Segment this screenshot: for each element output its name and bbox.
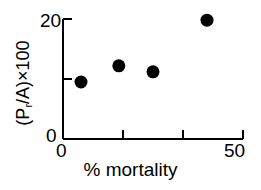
- y-axis-slash-a: /A): [13, 81, 33, 104]
- data-point: [201, 14, 214, 27]
- scatter-plot-figure: 20 0 0 50 % mortality (Pr/A)×100: [0, 0, 261, 190]
- y-tick-label-20: 20: [40, 11, 61, 30]
- data-point: [112, 59, 125, 72]
- y-tick-label-0: 0: [46, 126, 57, 145]
- y-axis-times-100: ×100: [13, 40, 33, 81]
- y-axis-p-subscript: r: [22, 104, 34, 108]
- data-point: [147, 65, 160, 78]
- x-axis-title: % mortality: [0, 160, 261, 179]
- data-point: [75, 76, 88, 89]
- x-tick-label-50: 50: [224, 141, 245, 160]
- x-axis-title-text: % mortality: [84, 159, 178, 180]
- y-axis-p-symbol: P: [13, 108, 33, 120]
- y-axis-open-paren: (: [13, 120, 33, 126]
- x-tick-label-0: 0: [56, 141, 67, 160]
- y-axis-title: (Pr/A)×100: [14, 8, 32, 158]
